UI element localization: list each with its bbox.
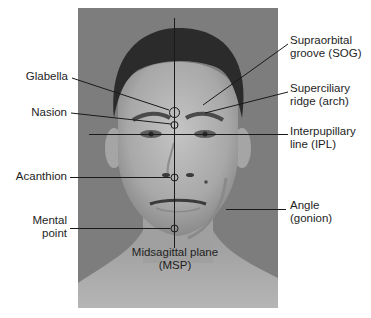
label-glabella: Glabella <box>26 70 68 83</box>
label-superciliary-ridge: Superciliary ridge (arch) <box>290 82 350 108</box>
label-line: Interpupillary <box>290 125 356 138</box>
label-line: line (IPL) <box>290 138 356 151</box>
label-line: Mental <box>32 214 67 227</box>
label-line: Supraorbital <box>290 34 362 47</box>
label-line: Superciliary <box>290 82 350 95</box>
glabella-leader-line <box>72 78 169 110</box>
label-line: groove (SOG) <box>290 47 362 60</box>
label-line: (gonion) <box>290 212 332 225</box>
label-line: Angle <box>290 199 332 212</box>
label-line: (MSP) <box>124 259 226 272</box>
label-mental-point: Mental point <box>32 214 67 240</box>
face-landmarks-figure: Supraorbital groove (SOG) Superciliary r… <box>0 0 371 318</box>
sog-leader-line <box>203 44 288 105</box>
label-nasion: Nasion <box>31 106 67 119</box>
label-acanthion: Acanthion <box>16 170 67 183</box>
label-angle-gonion: Angle (gonion) <box>290 199 332 225</box>
label-midsagittal-plane: Midsagittal plane (MSP) <box>124 246 226 272</box>
label-interpupillary-line: Interpupillary line (IPL) <box>290 125 356 151</box>
nasion-leader-line <box>71 113 171 124</box>
label-line: Midsagittal plane <box>124 246 226 259</box>
label-line: ridge (arch) <box>290 95 350 108</box>
label-line: point <box>32 227 67 240</box>
label-supraorbital-groove: Supraorbital groove (SOG) <box>290 34 362 60</box>
